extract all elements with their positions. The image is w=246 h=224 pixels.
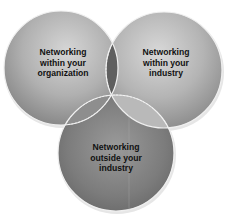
label-line: Networking — [85, 142, 147, 153]
label-line: organization — [30, 68, 96, 79]
label-line: Networking — [30, 47, 96, 58]
label-line: within your — [30, 58, 96, 69]
label-line: Networking — [135, 47, 197, 58]
label-outside: Networking outside your industry — [85, 142, 147, 174]
label-line: industry — [135, 68, 197, 79]
venn-graphic — [0, 0, 246, 224]
venn-diagram: Networking within your organization Netw… — [0, 0, 246, 224]
label-industry: Networking within your industry — [135, 47, 197, 79]
label-line: outside your — [85, 153, 147, 164]
label-organization: Networking within your organization — [30, 47, 96, 79]
label-line: industry — [85, 163, 147, 174]
label-line: within your — [135, 58, 197, 69]
